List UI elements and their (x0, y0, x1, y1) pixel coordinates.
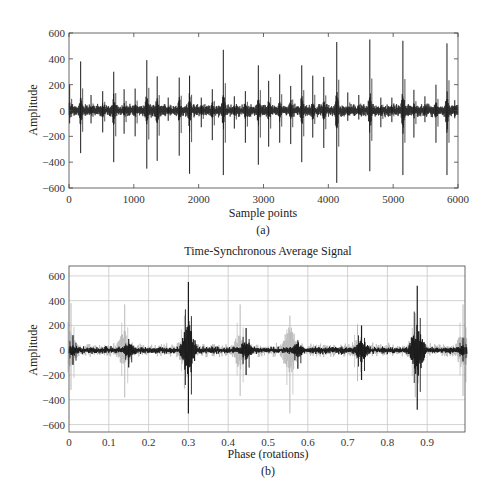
x-tick-label: 1000 (123, 193, 146, 205)
x-tick-label: 6000 (447, 193, 470, 205)
chart-b-tsa-signal: Time-Synchronous Average Signal −600−400… (26, 244, 467, 478)
chart-b-caption: (b) (261, 464, 275, 478)
y-tick-label: 200 (49, 319, 66, 331)
y-tick-label: 400 (49, 295, 66, 307)
y-tick-label: −200 (42, 130, 65, 142)
y-tick-label: 0 (60, 344, 66, 356)
chart-b-x-label: Phase (rotations) (228, 447, 309, 461)
x-tick-label: 2000 (188, 193, 211, 205)
y-tick-label: −200 (42, 369, 65, 381)
y-tick-label: 400 (49, 53, 66, 65)
x-tick-label: 0.1 (102, 436, 116, 448)
x-tick-label: 0.7 (341, 436, 355, 448)
chart-b-y-ticks: −600−400−2000200400600 (42, 270, 65, 431)
chart-a-y-label: Amplitude (26, 84, 40, 135)
y-tick-label: −400 (42, 156, 65, 168)
chart-a-x-label: Sample points (229, 206, 298, 220)
y-tick-label: 600 (49, 270, 66, 282)
chart-a-x-ticks: 0100020003000400050006000 (66, 33, 469, 205)
chart-b-individual-rotations-trace (68, 303, 467, 413)
y-tick-label: −600 (42, 419, 65, 431)
x-tick-label: 5000 (382, 193, 405, 205)
chart-b-y-label: Amplitude (26, 324, 40, 375)
x-tick-label: 0.8 (381, 436, 395, 448)
chart-a-caption: (a) (256, 223, 269, 237)
x-tick-label: 0.3 (182, 436, 196, 448)
x-tick-label: 0.2 (142, 436, 156, 448)
x-tick-label: 3000 (253, 193, 276, 205)
y-tick-label: 0 (60, 105, 66, 117)
x-tick-label: 0 (66, 436, 72, 448)
y-tick-label: 200 (49, 79, 66, 91)
figure: −600−400−2000200400600 01000200030004000… (0, 0, 490, 490)
x-tick-label: 0 (66, 193, 72, 205)
y-tick-label: −600 (42, 182, 65, 194)
y-tick-label: −400 (42, 394, 65, 406)
x-tick-label: 0.9 (420, 436, 434, 448)
chart-a-sample-signal: −600−400−2000200400600 01000200030004000… (26, 27, 470, 237)
chart-a-signal-trace (69, 39, 458, 182)
x-tick-label: 4000 (317, 193, 340, 205)
chart-b-title: Time-Synchronous Average Signal (184, 244, 352, 258)
y-tick-label: 600 (49, 27, 66, 39)
